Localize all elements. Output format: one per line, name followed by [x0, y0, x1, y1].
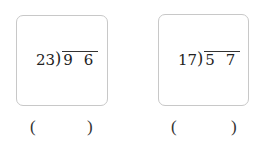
divisor: 23: [36, 51, 55, 69]
close-paren: ): [87, 117, 93, 137]
dividend: 9 6: [62, 51, 98, 68]
close-paren: ): [231, 117, 237, 137]
divisor: 17: [178, 51, 197, 69]
open-paren: (: [30, 117, 36, 137]
long-division-expression: 17)5 7: [178, 51, 240, 69]
long-division-expression: 23)9 6: [36, 51, 98, 69]
division-bracket: ): [55, 50, 61, 68]
problem-card-1: 23)9 6: [16, 15, 108, 106]
problem-card-2: 17)5 7: [158, 14, 249, 106]
division-bracket: ): [197, 50, 203, 68]
dividend: 5 7: [204, 51, 240, 68]
open-paren: (: [171, 117, 177, 137]
